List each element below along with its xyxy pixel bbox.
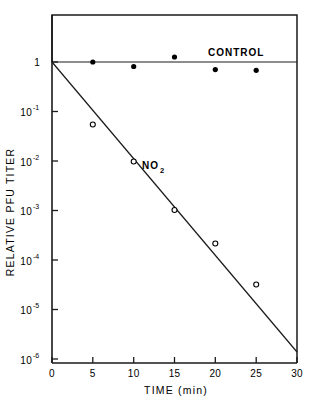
data-point <box>131 159 136 164</box>
y-tick-label-5: 10 <box>20 305 32 316</box>
y-tick-label-1: 10 <box>20 107 32 118</box>
x-tick-label-5: 25 <box>250 368 262 379</box>
figure-container: 1 10 -1 10 -2 10 -3 10 -4 10 -5 10 -6 0 … <box>0 0 317 405</box>
y-tick-label-2: 10 <box>20 157 32 168</box>
y-axis-title: RELATIVE PFU TITER <box>4 148 16 277</box>
x-tick-label-1: 5 <box>90 368 96 379</box>
data-point <box>213 67 218 72</box>
plot-frame <box>52 15 297 363</box>
y-tick-exponent-5: -5 <box>33 302 39 309</box>
data-point <box>254 282 259 287</box>
y-tick-label-6: 10 <box>20 355 32 366</box>
x-tick-label-2: 10 <box>128 368 140 379</box>
data-point <box>254 68 259 73</box>
x-axis <box>52 357 297 363</box>
x-tick-labels: 0 5 10 15 20 25 30 <box>49 368 303 379</box>
control-series-label: CONTROL <box>208 47 264 58</box>
y-tick-exponent-1: -1 <box>33 104 39 111</box>
data-point <box>131 64 136 69</box>
y-tick-labels: 1 10 -1 10 -2 10 -3 10 -4 10 -5 10 -6 <box>20 57 40 366</box>
pfu-titer-log-scatter-chart: 1 10 -1 10 -2 10 -3 10 -4 10 -5 10 -6 0 … <box>0 0 317 405</box>
y-tick-label-3: 10 <box>20 206 32 217</box>
no2-data-points <box>90 122 258 287</box>
data-point <box>90 122 95 127</box>
y-tick-exponent-4: -4 <box>33 253 39 260</box>
x-tick-label-3: 15 <box>169 368 181 379</box>
x-tick-label-0: 0 <box>49 368 55 379</box>
y-tick-exponent-6: -6 <box>33 352 39 359</box>
y-tick-label-4: 10 <box>20 256 32 267</box>
x-axis-title: TIME (min) <box>144 384 208 396</box>
data-point <box>213 241 218 246</box>
no2-series-label-text: NO <box>142 160 159 171</box>
no2-series-label-subscript: 2 <box>160 166 164 175</box>
data-point <box>172 54 177 59</box>
x-tick-label-6: 30 <box>291 368 303 379</box>
data-point <box>90 59 95 64</box>
data-point <box>172 208 177 213</box>
y-tick-label-0: 1 <box>34 57 40 68</box>
x-tick-label-4: 20 <box>209 368 221 379</box>
y-tick-exponent-3: -3 <box>33 203 39 210</box>
y-tick-exponent-2: -2 <box>33 154 39 161</box>
